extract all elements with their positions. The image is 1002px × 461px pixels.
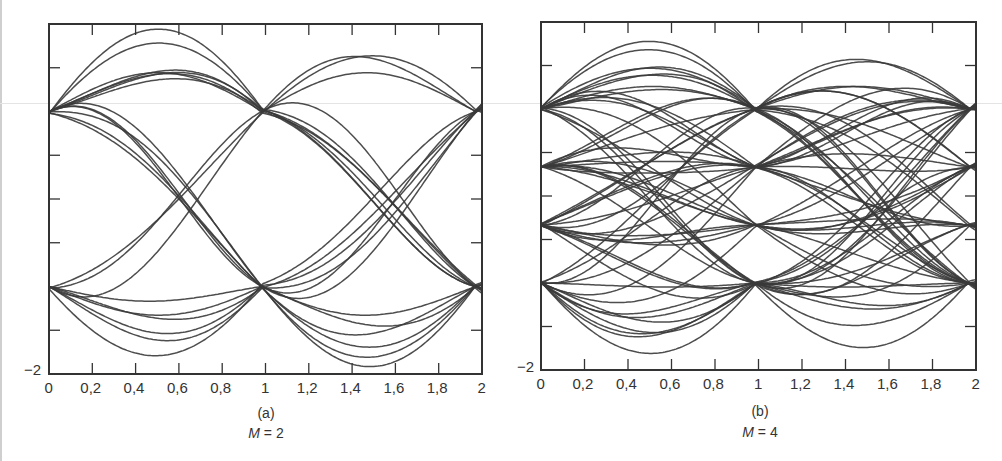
m-label-b: M = 4	[720, 424, 800, 440]
y-min-label-b: −2	[517, 358, 534, 375]
x-tick-label: 0,6	[660, 375, 681, 392]
x-tick-label: 0,2	[573, 375, 594, 392]
eye-diagram-panel-a	[49, 24, 482, 374]
x-tick-label: 1,8	[427, 379, 448, 396]
x-tick-label: 1,8	[921, 375, 942, 392]
x-tick-label: 1,6	[383, 379, 404, 396]
x-tick-label: 1	[754, 375, 762, 392]
m-value-b: = 4	[754, 424, 778, 440]
x-tick-label: 0,6	[167, 379, 188, 396]
m-value-a: = 2	[260, 425, 284, 441]
x-tick-label: 1,2	[790, 375, 811, 392]
x-tick-label: 0	[537, 375, 545, 392]
x-tick-label: 0,8	[210, 379, 231, 396]
x-tick-label: 1,4	[340, 379, 361, 396]
x-tick-label: 1,2	[297, 379, 318, 396]
x-tick-label: 1,6	[877, 375, 898, 392]
eye-traces	[49, 29, 482, 366]
x-tick-label: 2	[972, 375, 980, 392]
eye-traces	[541, 41, 976, 353]
x-tick-label: 0,2	[80, 379, 101, 396]
panel-caption-b: (b)	[730, 403, 790, 419]
x-tick-label: 2	[478, 379, 486, 396]
m-var-b: M	[742, 424, 754, 440]
m-label-a: M = 2	[226, 425, 306, 441]
panel-caption-a: (a)	[236, 405, 296, 421]
m-var-a: M	[248, 425, 260, 441]
eye-diagram-panel-b	[541, 22, 976, 370]
x-tick-label: 0,8	[703, 375, 724, 392]
x-tick-label: 0,4	[124, 379, 145, 396]
x-tick-label: 1,4	[834, 375, 855, 392]
x-tick-label: 0,4	[616, 375, 637, 392]
y-min-label-a: −2	[24, 361, 41, 378]
x-tick-label: 0	[45, 379, 53, 396]
x-tick-label: 1	[261, 379, 269, 396]
